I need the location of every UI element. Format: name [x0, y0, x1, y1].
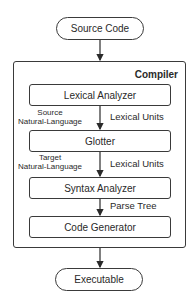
edge-label-parse-tree: Parse Tree: [110, 200, 156, 211]
source-code-label: Source Code: [71, 23, 129, 34]
side-label-target-natural-language: Target Natural-Language: [16, 153, 84, 171]
syntax-analyzer-label: Syntax Analyzer: [64, 183, 136, 194]
compiler-title: Compiler: [135, 69, 178, 80]
syntax-analyzer-node: Syntax Analyzer: [29, 177, 171, 199]
executable-node: Executable: [55, 268, 143, 291]
lexical-analyzer-label: Lexical Analyzer: [64, 90, 136, 101]
edge-label-lexical-units-2: Lexical Units: [110, 158, 164, 169]
lexical-analyzer-node: Lexical Analyzer: [29, 84, 171, 106]
side-label-source-natural-language: Source Natural-Language: [16, 108, 84, 126]
side-label-line1: Target: [16, 153, 84, 162]
edge-label-lexical-units-1: Lexical Units: [110, 111, 164, 122]
code-generator-node: Code Generator: [29, 216, 171, 238]
glotter-node: Glotter: [29, 130, 171, 152]
side-label-line2: Natural-Language: [16, 117, 84, 126]
glotter-label: Glotter: [85, 136, 115, 147]
executable-label: Executable: [74, 274, 123, 285]
source-code-node: Source Code: [56, 17, 144, 40]
side-label-line1: Source: [16, 108, 84, 117]
code-generator-label: Code Generator: [64, 222, 136, 233]
side-label-line2: Natural-Language: [16, 162, 84, 171]
